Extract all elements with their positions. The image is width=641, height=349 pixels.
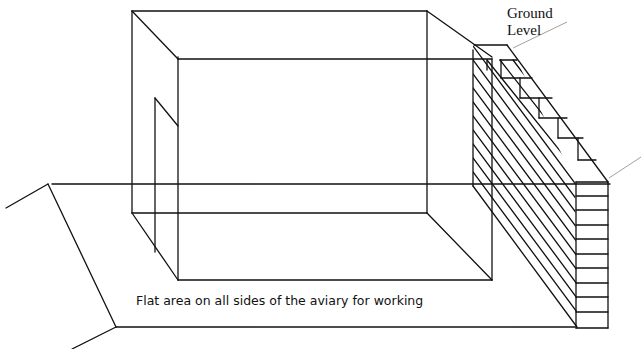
ground-level-label-line1: Ground	[507, 5, 553, 21]
ground-level-label-line2: Level	[507, 22, 541, 38]
flat-area-label: Flat area on all sides of the aviary for…	[136, 293, 423, 308]
aviary-door	[155, 98, 178, 252]
hatched-soil-section	[473, 46, 577, 327]
aviary-box	[132, 11, 492, 280]
aviary-diagram: Ground Level Flat area on all sides of t…	[0, 0, 641, 349]
slope-banks	[6, 184, 116, 349]
